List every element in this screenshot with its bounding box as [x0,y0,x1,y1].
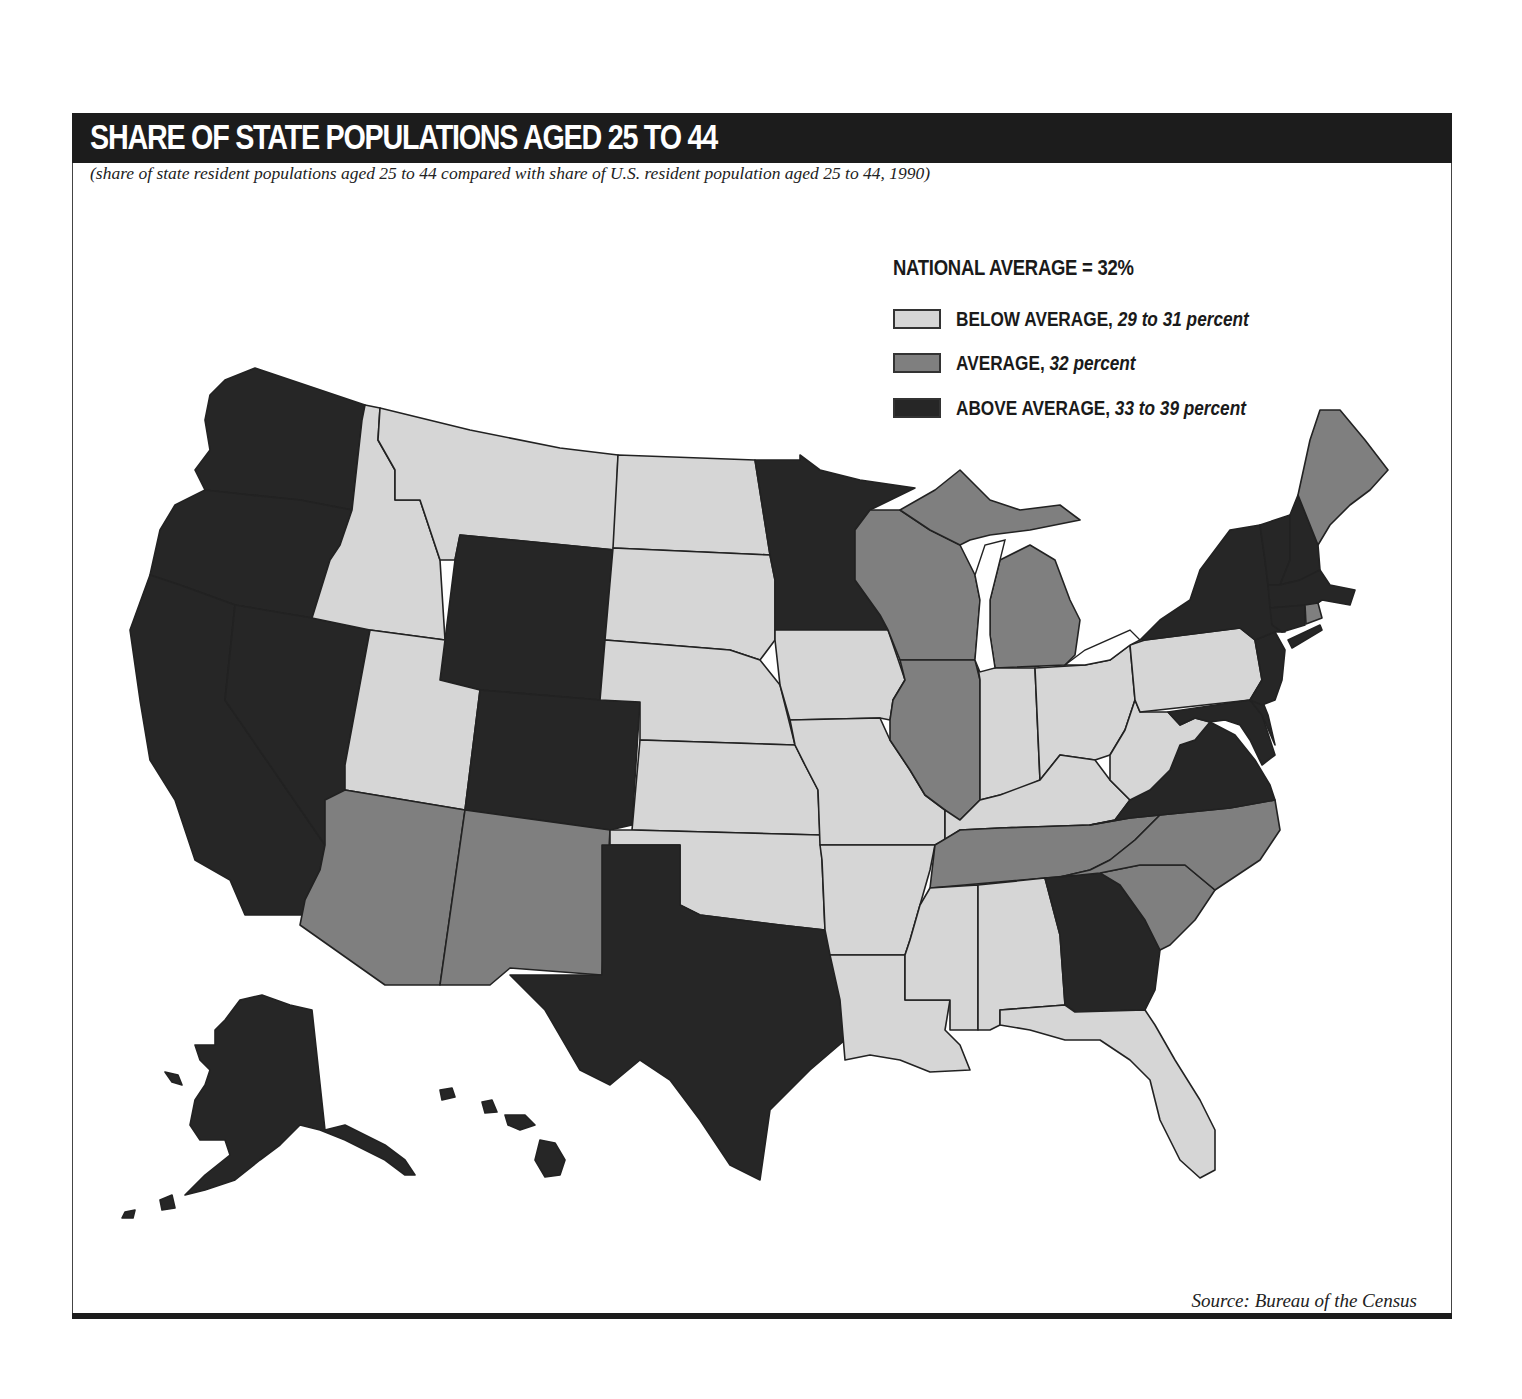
state-ak-island-3 [165,1072,182,1085]
state-in [978,668,1040,800]
bottom-rule [72,1313,1452,1319]
state-ri [1305,603,1322,624]
state-hi-maui [505,1115,535,1130]
state-wy [440,535,615,700]
state-ak [185,995,415,1195]
legend-swatch-above [893,398,941,418]
us-map [0,0,1522,1399]
state-nm [440,810,610,985]
state-az [300,790,465,985]
legend-label-average: AVERAGE, 32 percent [956,351,1136,375]
state-ia [775,630,905,720]
state-co [465,690,640,830]
state-ct [1270,605,1305,632]
legend: NATIONAL AVERAGE = 32% BELOW AVERAGE, 29… [893,255,1180,281]
state-nd [613,455,770,555]
state-hi-oahu [482,1100,497,1113]
state-ak-island-2 [122,1210,135,1218]
legend-label-below: BELOW AVERAGE, 29 to 31 percent [956,307,1249,331]
state-pa [1130,628,1262,712]
state-me [1298,410,1388,545]
state-wa [195,368,365,510]
legend-swatch-average [893,353,941,373]
legend-label-above: ABOVE AVERAGE, 33 to 39 percent [956,396,1246,420]
state-mi-lower [990,545,1080,668]
legend-title: NATIONAL AVERAGE = 32% [893,255,1134,281]
source-note: Source: Bureau of the Census [1192,1290,1418,1312]
state-fl [1000,1005,1215,1178]
state-ks [632,740,820,835]
state-hi-kauai [440,1088,455,1100]
state-ak-island-1 [160,1195,175,1210]
state-hi-big-island [535,1140,565,1177]
legend-swatch-below [893,309,941,329]
